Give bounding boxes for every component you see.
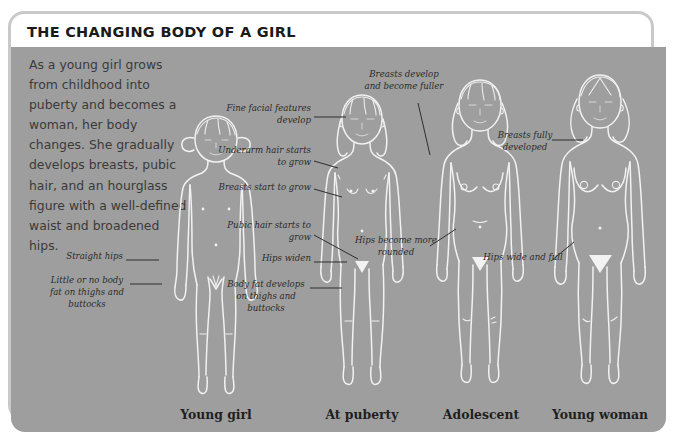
- leader-hips-widen: [314, 258, 350, 266]
- label-straight-hips: Straight hips: [53, 251, 123, 263]
- label-hips-widen: Hips widen: [221, 253, 311, 265]
- leader-breasts-develop-fuller: [414, 103, 436, 159]
- label-fine-facial-features: Fine facial features develop: [219, 103, 311, 127]
- leader-straight-hips: [126, 256, 162, 264]
- leader-body-fat-develops: [310, 284, 346, 292]
- leader-fine-facial-features: [314, 113, 350, 121]
- label-pubic-hair: Pubic hair starts to grow: [217, 220, 311, 244]
- leader-hips-wide-and-full: [551, 242, 577, 264]
- caption-young-girl: Young girl: [161, 407, 271, 422]
- caption-young-woman: Young woman: [541, 407, 659, 422]
- leader-underarm-hair: [314, 159, 340, 169]
- leader-hips-more-rounded: [430, 229, 458, 249]
- label-underarm-hair: Underarm hair starts to grow: [217, 145, 311, 169]
- label-little-body-fat: Little or no body fat on thighs and butt…: [47, 275, 127, 311]
- caption-at-puberty: At puberty: [307, 407, 417, 422]
- label-breasts-start: Breasts start to grow: [217, 182, 311, 194]
- leader-breasts-fully-developed: [552, 136, 586, 144]
- leader-breasts-start: [314, 187, 344, 199]
- diagram-panel: As a young girl grows from childhood int…: [11, 47, 666, 432]
- leader-little-body-fat: [130, 280, 166, 288]
- figure-young-woman: [541, 65, 659, 401]
- card-header: THE CHANGING BODY OF A GIRL: [11, 14, 651, 50]
- page-title: THE CHANGING BODY OF A GIRL: [11, 24, 296, 40]
- label-breasts-develop-fuller: Breasts develop and become fuller: [361, 69, 447, 93]
- label-body-fat-develops: Body fat develops on thighs and buttocks: [225, 279, 307, 315]
- label-hips-more-rounded: Hips become more rounded: [351, 235, 441, 259]
- caption-adolescent: Adolescent: [423, 407, 539, 422]
